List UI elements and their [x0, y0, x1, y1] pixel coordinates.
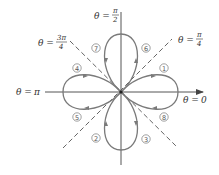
loop-label-4: 4 — [73, 64, 81, 73]
dashed-line-pi-over-4 — [63, 39, 172, 148]
svg-text:θ =: θ = — [178, 35, 194, 45]
svg-text:θ =: θ = — [183, 95, 199, 105]
svg-text:3π: 3π — [57, 34, 66, 42]
svg-text:5: 5 — [75, 114, 79, 122]
loop-label-1: 1 — [160, 64, 168, 73]
svg-text:θ =: θ = — [16, 87, 32, 97]
loop-label-5: 5 — [73, 113, 81, 122]
loop-label-7: 7 — [92, 44, 100, 53]
label-theta-0: θ = 0 — [183, 95, 207, 105]
svg-text:θ =: θ = — [38, 38, 54, 48]
svg-text:6: 6 — [144, 45, 148, 53]
svg-text:4: 4 — [58, 43, 63, 51]
svg-text:π: π — [112, 7, 118, 15]
loop-label-3: 3 — [142, 135, 150, 144]
svg-text:1: 1 — [162, 65, 166, 73]
label-theta-3pi-over-4: θ = 3π 4 — [38, 34, 67, 51]
svg-text:7: 7 — [94, 45, 98, 53]
label-theta-pi-over-2: θ = π 2 — [94, 7, 119, 24]
svg-text:3: 3 — [144, 136, 148, 144]
svg-text:π: π — [196, 31, 202, 39]
label-theta-pi: θ = π — [16, 87, 41, 97]
label-theta-pi-over-4: θ = π 4 — [178, 31, 203, 48]
loop-label-6: 6 — [142, 44, 150, 53]
svg-text:θ =: θ = — [94, 11, 110, 21]
svg-text:π: π — [33, 87, 41, 97]
origin-point — [119, 90, 122, 93]
svg-text:2: 2 — [112, 16, 118, 24]
polar-rose-diagram: θ = π 2 θ = π 4 θ = 3π 4 θ = π θ = 0 1 2… — [0, 0, 219, 175]
svg-text:8: 8 — [162, 114, 166, 122]
svg-text:4: 4 — [196, 40, 201, 48]
loop-label-8: 8 — [160, 113, 168, 122]
svg-text:4: 4 — [75, 65, 79, 73]
svg-text:0: 0 — [201, 95, 207, 105]
svg-text:2: 2 — [94, 135, 98, 143]
loop-label-2: 2 — [92, 134, 100, 143]
